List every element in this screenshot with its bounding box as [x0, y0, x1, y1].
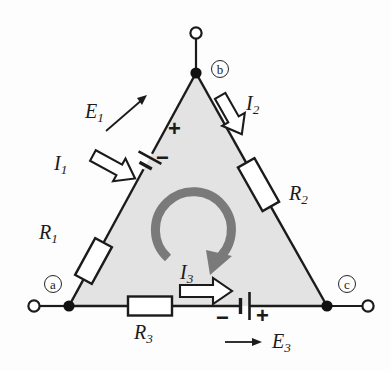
resistor-label-R3-sub: 3	[146, 331, 153, 346]
resistor-label-R1: R1	[39, 222, 58, 245]
resistor-label-R1-base: R	[39, 221, 51, 243]
node-label-a: a	[44, 275, 62, 293]
resistor-label-R3: R3	[134, 322, 153, 345]
polarity-minus-E1: −	[156, 147, 169, 169]
current-label-I1-base: I	[54, 152, 61, 174]
node-dot-b	[190, 67, 201, 78]
current-label-I1: I1	[54, 153, 67, 176]
current-label-I2-base: I	[246, 92, 253, 114]
terminal-b-top[interactable]	[190, 27, 201, 38]
polarity-minus-E3: −	[216, 307, 229, 329]
source-label-E1-base: E	[85, 100, 97, 122]
node-label-b-text: b	[217, 63, 224, 76]
terminal-a-left[interactable]	[28, 300, 39, 311]
polarity-plus-E1: +	[168, 118, 181, 140]
circuit-diagram-figure: a b c R1 R2 R3 E1 E3 I1 I2 I3 + − − +	[0, 0, 391, 371]
resistor-label-R2: R2	[289, 183, 308, 206]
source-label-E3: E3	[272, 331, 291, 354]
emf-arrow-E1	[106, 95, 147, 131]
resistor-R3	[128, 297, 172, 316]
current-label-I1-sub: 1	[61, 162, 68, 177]
node-label-c-text: c	[344, 278, 350, 291]
node-dot-c	[321, 300, 332, 311]
current-label-I3-base: I	[180, 261, 187, 283]
node-dot-a	[63, 300, 74, 311]
current-label-I3-sub: 3	[187, 271, 194, 286]
polarity-plus-E3: +	[256, 305, 269, 327]
source-label-E1-sub: 1	[97, 110, 104, 125]
terminal-c-right[interactable]	[362, 300, 373, 311]
source-label-E3-sub: 3	[284, 340, 291, 355]
source-label-E1: E1	[85, 101, 104, 124]
node-label-a-text: a	[50, 278, 56, 291]
current-label-I2: I2	[246, 93, 259, 116]
current-arrow-I1	[87, 144, 142, 190]
current-label-I3: I3	[180, 262, 193, 285]
source-label-E3-base: E	[272, 330, 284, 352]
resistor-label-R3-base: R	[134, 321, 146, 343]
resistor-label-R2-base: R	[289, 182, 301, 204]
resistor-label-R2-sub: 2	[301, 192, 308, 207]
resistor-label-R1-sub: 1	[51, 231, 58, 246]
node-label-c: c	[338, 275, 356, 293]
circuit-svg	[0, 0, 391, 371]
emf-arrow-E3	[225, 338, 262, 346]
current-label-I2-sub: 2	[253, 102, 260, 117]
node-label-b: b	[211, 60, 229, 78]
